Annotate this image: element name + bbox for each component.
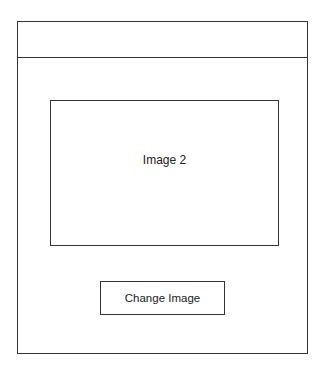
- header-bar: [18, 22, 307, 58]
- app-window-frame: Image 2 Change Image: [17, 21, 308, 354]
- image-placeholder: Image 2: [50, 100, 279, 246]
- image-placeholder-label: Image 2: [143, 153, 186, 167]
- change-image-button[interactable]: Change Image: [100, 281, 225, 315]
